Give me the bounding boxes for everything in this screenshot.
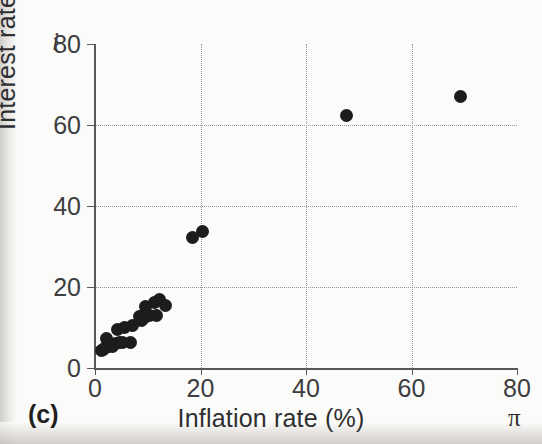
scatter-point (124, 336, 137, 349)
x-tick-label: 0 (88, 374, 102, 403)
y-axis-tick (87, 287, 95, 288)
gridline-horizontal (95, 206, 517, 207)
scatter-point (159, 299, 172, 312)
x-tick-label: 20 (187, 374, 215, 403)
y-tick-label: 60 (0, 111, 81, 140)
y-tick-label: 20 (0, 273, 81, 302)
scatter-point (150, 309, 163, 322)
scatter-point (454, 90, 467, 103)
gridline-horizontal (95, 125, 517, 126)
x-axis-title: Inflation rate (%) (0, 404, 542, 433)
x-tick-label: 40 (292, 374, 320, 403)
y-axis-tick (87, 368, 95, 369)
y-tick-label: 0 (0, 354, 81, 383)
y-axis-tick (87, 206, 95, 207)
y-tick-label: 40 (0, 192, 81, 221)
y-axis-tick (87, 44, 95, 45)
scatter-point (340, 109, 353, 122)
panel-label: (c) (28, 400, 59, 429)
y-axis-tick (87, 125, 95, 126)
x-tick-label: 80 (503, 374, 531, 403)
gridline-horizontal (95, 287, 517, 288)
x-tick-label: 60 (398, 374, 426, 403)
figure-panel-c: i π Interest rate (%) Inflation rate (%)… (0, 0, 542, 444)
scatter-point (196, 225, 209, 238)
plot-area (95, 44, 517, 368)
y-tick-label: 80 (0, 30, 81, 59)
